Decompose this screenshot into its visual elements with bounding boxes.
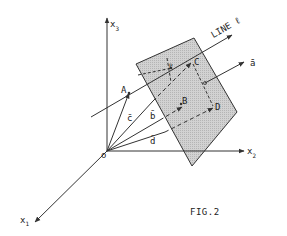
figure-2-diagram: x3 x2 x1 o LINE ℓ ā A P C B D c̄ b̄ d̄ F… bbox=[0, 0, 287, 236]
point-A-label: A bbox=[121, 85, 127, 95]
point-D-label: D bbox=[215, 102, 220, 112]
vector-b-label: b̄ bbox=[150, 110, 155, 121]
point-B-label: B bbox=[182, 96, 187, 106]
point-P-label: P bbox=[169, 62, 173, 69]
x1-axis bbox=[35, 151, 107, 222]
line-l-label: LINE ℓ bbox=[209, 15, 242, 40]
point-A-marker bbox=[128, 92, 131, 95]
normal-vector-label: ā bbox=[250, 58, 255, 68]
origin-label: o bbox=[101, 150, 106, 160]
x3-label: x3 bbox=[110, 19, 119, 32]
x2-label: x2 bbox=[247, 146, 256, 159]
x1-label: x1 bbox=[20, 215, 29, 227]
figure-caption: FIG.2 bbox=[190, 207, 220, 217]
point-C-label: C bbox=[194, 57, 199, 67]
vector-c-label: c̄ bbox=[127, 113, 132, 123]
vector-d-label: d̄ bbox=[150, 135, 155, 146]
